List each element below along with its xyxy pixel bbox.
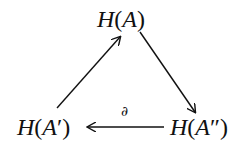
node-close-paren: ) <box>137 6 145 32</box>
node-arg: A <box>42 114 57 140</box>
node-homology-a: H(A) <box>97 7 145 31</box>
arrow-top-to-right <box>140 32 195 112</box>
node-func: H <box>17 114 34 140</box>
node-homology-a-double-prime: H(A″) <box>170 115 228 139</box>
node-homology-a-prime: H(A′) <box>17 115 70 139</box>
node-close-paren: ) <box>62 114 70 140</box>
node-func: H <box>97 6 114 32</box>
node-arg: A <box>122 6 137 32</box>
arrow-left-to-top <box>57 37 120 108</box>
node-func: H <box>170 114 187 140</box>
boundary-map-label: ∂ <box>121 104 128 118</box>
node-prime: ″ <box>210 114 220 140</box>
node-close-paren: ) <box>220 114 228 140</box>
node-arg: A <box>195 114 210 140</box>
